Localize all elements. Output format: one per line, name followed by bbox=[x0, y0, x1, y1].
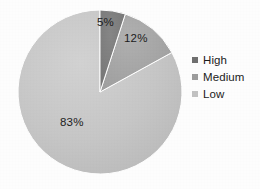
legend-swatch-icon bbox=[192, 57, 198, 63]
legend-label-low: Low bbox=[203, 88, 224, 100]
slice-label-low: 83% bbox=[60, 116, 84, 128]
legend-item-high[interactable]: High bbox=[192, 52, 258, 68]
legend-swatch-icon bbox=[192, 91, 198, 97]
legend-item-medium[interactable]: Medium bbox=[192, 69, 258, 85]
pie-plot-area: 5% 12% 83% bbox=[0, 0, 190, 189]
legend: High Medium Low bbox=[192, 52, 258, 103]
pie-svg bbox=[0, 0, 190, 189]
legend-label-medium: Medium bbox=[203, 71, 245, 83]
legend-swatch-icon bbox=[192, 74, 198, 80]
legend-item-low[interactable]: Low bbox=[192, 86, 258, 102]
slice-label-high: 5% bbox=[97, 16, 114, 28]
legend-label-high: High bbox=[203, 54, 227, 66]
slice-label-medium: 12% bbox=[124, 32, 148, 44]
pie-chart: 5% 12% 83% High Medium Low bbox=[0, 0, 260, 189]
